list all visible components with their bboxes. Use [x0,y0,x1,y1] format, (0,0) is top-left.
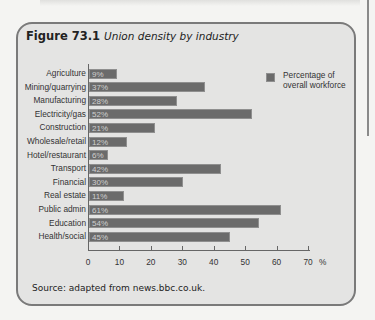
bar: 21% [89,123,155,133]
bar-value-label: 21% [92,124,108,133]
figure-title: Figure 73.1Union density by industry [26,29,239,43]
category-label: Public admin [0,204,86,215]
x-tick [88,246,89,251]
category-label: Mining/quarrying [0,82,86,93]
bar-value-label: 28% [92,97,108,106]
category-label: Electricity/gas [0,109,86,120]
x-tick-label: 40 [204,257,224,267]
x-tick [308,246,309,251]
bar-value-label: 9% [92,70,104,79]
bar-value-label: 37% [92,83,108,92]
page-top-edge [40,0,360,6]
bar: 12% [89,137,127,147]
x-tick-label: 20 [141,257,161,267]
bar-value-label: 6% [92,151,104,160]
bar: 11% [89,191,124,201]
bar: 52% [89,109,252,119]
bar: 45% [89,232,230,242]
bar-value-label: 45% [92,233,108,242]
page-margin-rule [367,0,369,136]
bar-value-label: 52% [92,110,108,119]
figure-caption: Union density by industry [104,30,239,42]
x-axis-unit: % [319,257,326,267]
x-tick-label: 60 [267,257,287,267]
bar: 9% [89,69,117,79]
category-label: Wholesale/retail [0,136,86,147]
category-label: Education [0,218,86,229]
x-tick [214,246,215,251]
x-tick-label: 10 [109,257,129,267]
x-tick-label: 30 [172,257,192,267]
bar-value-label: 61% [92,206,108,215]
x-tick-label: 0 [78,257,98,267]
bar: 42% [89,164,221,174]
legend-label: Percentage of overall workforce [283,70,353,90]
source-note: Source: adapted from news.bbc.co.uk. [32,283,205,293]
category-label: Agriculture [0,68,86,79]
bar: 54% [89,218,259,228]
category-label: Construction [0,122,86,133]
category-label: Health/social [0,231,86,242]
bar-value-label: 54% [92,219,108,228]
bar: 6% [89,150,108,160]
bar: 37% [89,82,205,92]
x-tick [245,246,246,251]
x-tick [182,246,183,251]
figure-number: Figure 73.1 [26,29,100,43]
category-label: Manufacturing [0,95,86,106]
x-tick [151,246,152,251]
category-label: Real estate [0,190,86,201]
category-label: Transport [0,163,86,174]
x-tick [277,246,278,251]
x-tick-label: 50 [235,257,255,267]
category-label: Financial [0,177,86,188]
bar: 28% [89,96,177,106]
bar-value-label: 42% [92,165,108,174]
x-tick [119,246,120,251]
bar-value-label: 30% [92,178,108,187]
category-label: Hotel/restaurant [0,150,86,161]
bar-value-label: 12% [92,138,108,147]
bar-value-label: 11% [92,192,107,201]
x-tick-label: 70 [298,257,318,267]
legend-swatch [266,73,275,82]
bar: 61% [89,205,281,215]
bar: 30% [89,177,183,187]
